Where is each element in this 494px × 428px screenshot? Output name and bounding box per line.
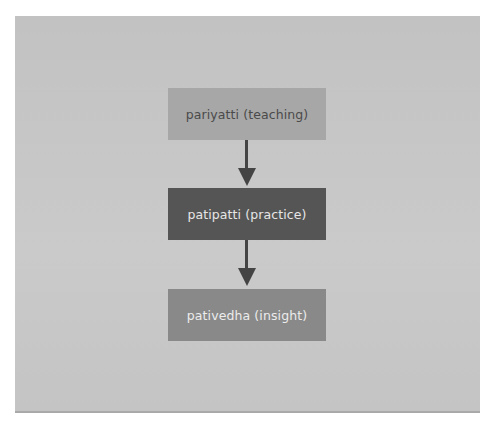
arrow-head [238, 168, 256, 186]
node-pariyatti: pariyatti (teaching) [168, 88, 326, 140]
arrow-down-icon [238, 240, 256, 289]
node-label: pariyatti (teaching) [186, 107, 309, 122]
arrow-head [238, 268, 256, 286]
arrow-down-icon [238, 140, 256, 188]
node-pativedha: pativedha (insight) [168, 289, 326, 341]
arrow-shaft [245, 240, 248, 270]
node-label: patipatti (practice) [187, 207, 306, 222]
arrow-shaft [245, 140, 248, 170]
node-patipatti: patipatti (practice) [168, 188, 326, 240]
diagram-panel: pariyatti (teaching) patipatti (practice… [15, 16, 480, 413]
node-label: pativedha (insight) [187, 308, 307, 323]
